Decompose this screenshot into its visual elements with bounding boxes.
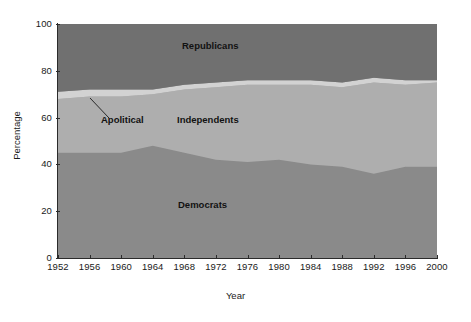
x-tick-mark: [374, 255, 375, 259]
x-tick-mark: [216, 255, 217, 259]
x-tick-mark: [90, 255, 91, 259]
x-tick-label: 2000: [417, 261, 457, 272]
x-tick-mark: [58, 255, 59, 259]
y-axis-title: Percentage: [11, 86, 22, 186]
series-label-republicans: Republicans: [182, 40, 239, 51]
y-tick-label: 40: [22, 159, 52, 169]
stacked-area-plot: [58, 24, 437, 258]
x-axis-title: Year: [0, 290, 471, 301]
y-tick-label: 20: [22, 206, 52, 216]
y-tick-mark: [56, 118, 60, 119]
stacked-area-chart-figure: 100806040200 195219561960196419681972197…: [0, 0, 471, 322]
x-tick-mark: [405, 255, 406, 259]
series-label-democrats: Democrats: [178, 199, 227, 210]
series-label-apolitical: Apolitical: [101, 114, 144, 125]
x-tick-mark: [184, 255, 185, 259]
x-tick-mark: [248, 255, 249, 259]
y-tick-mark: [56, 164, 60, 165]
series-label-independents: Independents: [177, 114, 239, 125]
x-tick-mark: [311, 255, 312, 259]
y-tick-mark: [56, 71, 60, 72]
y-tick-label: 100: [22, 19, 52, 29]
plot-area: [58, 24, 437, 258]
y-tick-label: 80: [22, 66, 52, 76]
y-axis-line: [57, 23, 58, 259]
x-tick-mark: [342, 255, 343, 259]
x-tick-mark: [437, 255, 438, 259]
y-tick-mark: [56, 211, 60, 212]
y-tick-mark: [56, 24, 60, 25]
x-tick-mark: [279, 255, 280, 259]
y-tick-label: 60: [22, 113, 52, 123]
x-tick-mark: [121, 255, 122, 259]
x-tick-mark: [153, 255, 154, 259]
